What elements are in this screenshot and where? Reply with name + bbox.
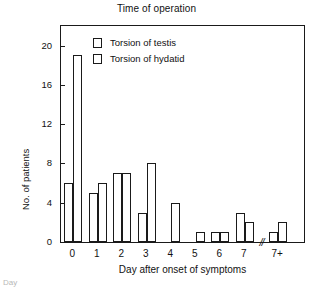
bar <box>220 232 229 242</box>
x-tick-label: 7+ <box>272 248 283 259</box>
y-tick-label: 16 <box>30 80 52 90</box>
bar <box>236 213 245 242</box>
x-axis-break-marker: // <box>259 236 263 248</box>
bar <box>98 183 107 242</box>
x-tick-label: 6 <box>216 248 222 259</box>
bar <box>122 173 131 242</box>
x-tick-label: 7 <box>241 248 247 259</box>
y-tick-label: 0 <box>30 237 52 247</box>
x-axis-title: Day after onset of symptoms <box>60 264 305 275</box>
y-tick-label: 8 <box>30 159 52 169</box>
bar <box>64 183 73 242</box>
legend-swatch-icon <box>93 54 102 64</box>
x-tick-label: 2 <box>118 248 124 259</box>
legend-item: Torsion of hydatid <box>93 52 184 65</box>
bar <box>211 232 220 242</box>
chart-title: Time of operation <box>0 3 313 14</box>
x-tick-label: 1 <box>94 248 100 259</box>
bar <box>89 193 98 242</box>
chart-legend: Torsion of testisTorsion of hydatid <box>93 36 184 68</box>
bar <box>269 232 278 242</box>
y-tick-label: 20 <box>30 41 52 51</box>
y-tick-label: 4 <box>30 198 52 208</box>
legend-label: Torsion of testis <box>110 37 176 48</box>
bar <box>278 222 287 242</box>
bar <box>245 222 254 242</box>
y-tick-label: 12 <box>30 119 52 129</box>
x-tick-label: 3 <box>143 248 149 259</box>
figure-chart-time-of-operation: Time of operation No. of patients 048121… <box>0 0 313 292</box>
bar <box>147 163 156 242</box>
bar <box>73 55 82 242</box>
caption-fragment: Day <box>3 278 17 287</box>
x-tick-label: 4 <box>167 248 173 259</box>
legend-label: Torsion of hydatid <box>110 53 184 64</box>
x-tick-label: 5 <box>192 248 198 259</box>
bar <box>113 173 122 242</box>
x-axis-baseline <box>60 242 305 243</box>
x-tick-label: 0 <box>69 248 75 259</box>
legend-swatch-icon <box>93 38 102 48</box>
bar <box>196 232 205 242</box>
bar <box>138 213 147 242</box>
bar <box>171 203 180 242</box>
legend-item: Torsion of testis <box>93 36 184 49</box>
